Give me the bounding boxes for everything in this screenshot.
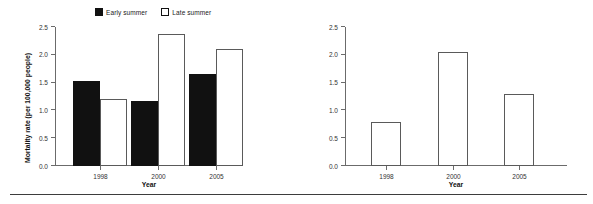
bar-2005-early-summer bbox=[189, 74, 216, 166]
bottom-divider bbox=[10, 194, 587, 195]
right-xtick-2000: 2000 bbox=[453, 166, 454, 170]
right-ytick-2: 1.0 bbox=[341, 109, 345, 110]
left-y-axis bbox=[55, 27, 56, 166]
right-ytick-0: 0.0 bbox=[341, 165, 345, 166]
left-ytick-5: 2.5 bbox=[51, 26, 55, 27]
bar-2005-relative-risk bbox=[504, 94, 534, 166]
hollow-square-icon bbox=[161, 8, 169, 16]
left-ytick-0: 0.0 bbox=[51, 165, 55, 166]
left-xtick-2000: 2000 bbox=[158, 166, 159, 170]
bar-2000-early-summer bbox=[131, 101, 158, 166]
left-ytick-1: 0.5 bbox=[51, 137, 55, 138]
right-y-axis bbox=[345, 27, 346, 166]
bar-1998-relative-risk bbox=[371, 122, 401, 166]
legend: Early summer Late summer bbox=[95, 8, 211, 16]
left-xtick-2005: 2005 bbox=[216, 166, 217, 170]
right-ytick-3: 1.5 bbox=[341, 82, 345, 83]
bar-1998-early-summer bbox=[73, 81, 100, 166]
filled-square-icon bbox=[95, 8, 103, 16]
right-ytick-1: 0.5 bbox=[341, 137, 345, 138]
right-xtick-1998: 1998 bbox=[386, 166, 387, 170]
legend-label-early-summer: Early summer bbox=[106, 9, 147, 16]
right-ytick-5: 2.5 bbox=[341, 26, 345, 27]
figure-panel: Early summer Late summer 0.0 0.5 1.0 1.5 bbox=[0, 0, 593, 204]
left-chart: Early summer Late summer 0.0 0.5 1.0 1.5 bbox=[0, 0, 300, 204]
bar-2000-late-summer bbox=[158, 34, 185, 166]
left-plot-area: 0.0 0.5 1.0 1.5 2.0 2.5 1998 bbox=[55, 27, 243, 166]
legend-label-late-summer: Late summer bbox=[172, 9, 211, 16]
right-ytick-4: 2.0 bbox=[341, 54, 345, 55]
legend-item-early-summer: Early summer bbox=[95, 8, 147, 16]
right-chart: 0.0 0.5 1.0 1.5 2.0 2.5 1998 2 bbox=[295, 0, 593, 204]
left-ytick-2: 1.0 bbox=[51, 109, 55, 110]
right-xtick-2005: 2005 bbox=[519, 166, 520, 170]
left-ytick-4: 2.0 bbox=[51, 54, 55, 55]
right-x-axis-title: Year bbox=[345, 181, 567, 188]
left-x-axis-title: Year bbox=[55, 181, 243, 188]
right-plot-area: 0.0 0.5 1.0 1.5 2.0 2.5 1998 2 bbox=[345, 27, 567, 166]
bar-2000-relative-risk bbox=[438, 52, 468, 166]
bar-2005-late-summer bbox=[216, 49, 243, 166]
left-ytick-3: 1.5 bbox=[51, 82, 55, 83]
left-y-axis-title: Mortality rate (per 100,000 people) bbox=[24, 53, 31, 163]
legend-item-late-summer: Late summer bbox=[161, 8, 211, 16]
left-xtick-1998: 1998 bbox=[100, 166, 101, 170]
bar-1998-late-summer bbox=[100, 99, 127, 166]
